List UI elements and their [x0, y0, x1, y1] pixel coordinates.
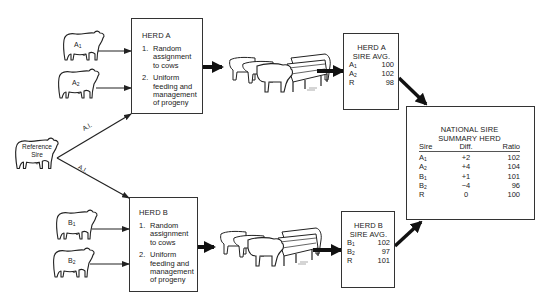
- herd-b-avg-row: R 101: [347, 257, 390, 265]
- sire-b2-label: B2: [68, 257, 75, 265]
- herd-b-box: HERD B 1. Random assignment to cows 2. U…: [129, 197, 198, 292]
- herd-b-step-1: 1. Random assignment to cows: [139, 222, 193, 247]
- summary-header-row: Sire Diff. Ratio: [419, 143, 520, 152]
- sire-a1-label: A1: [74, 41, 81, 49]
- summary-title-1: NATIONAL SIRE: [419, 125, 520, 134]
- herd-a-step-1: 1. Random assignment to cows: [142, 45, 198, 70]
- herd-b-steps: 1. Random assignment to cows 2. Uniform …: [139, 222, 193, 285]
- herd-a-step-2: 2. Uniform feeding and management of pro…: [142, 74, 198, 108]
- herd-b-sire-avg-box: HERD B SIRE AVG. B1 102 B2 97 R 101: [341, 211, 395, 288]
- herd-a-avg-row: R 98: [349, 79, 394, 87]
- herd-a-title: HERD A: [142, 31, 198, 40]
- herd-a-box: HERD A 1. Random assignment to cows 2. U…: [131, 18, 203, 114]
- national-sire-summary-box: NATIONAL SIRE SUMMARY HERD Sire Diff. Ra…: [406, 106, 535, 220]
- herd-b-title: HERD B: [139, 208, 193, 217]
- reference-sire-label: Reference Sire: [17, 143, 57, 159]
- sire-a1-cow-icon: [64, 31, 104, 60]
- summary-row: R 0 100: [419, 191, 520, 199]
- herd-a-sire-avg-box: HERD A SIRE AVG. A1 100 A2 102 R 98: [343, 33, 399, 110]
- herd-a-steps: 1. Random assignment to cows 2. Uniform …: [142, 45, 198, 108]
- herd-a-feeding-illustration: [230, 54, 331, 92]
- sire-a2-label: A2: [72, 79, 79, 87]
- sire-b1-cow-icon: [57, 210, 97, 239]
- herd-b-step-2: 2. Uniform feeding and management of pro…: [139, 251, 193, 285]
- sire-evaluation-diagram: A.I. A.I. A1 A2 B1 B2 Reference Sire HER…: [0, 0, 550, 305]
- summary-row: B2 −4 96: [419, 182, 520, 191]
- herd-b-feeding-illustration: [221, 228, 322, 266]
- sire-b1-label: B1: [68, 219, 75, 227]
